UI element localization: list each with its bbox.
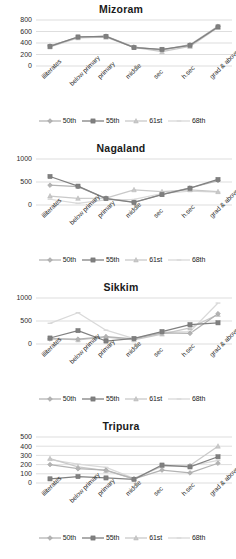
legend-item-55th[interactable]: 55th <box>82 111 119 129</box>
chart-panel-nagaland: Nagaland05001000illiteratesbelow primary… <box>0 139 236 278</box>
charts-page: Mizoram0200400600800illiteratesbelow pri… <box>0 0 236 559</box>
x-axis-labels-nagaland: illiteratesbelow primaryprimarymiddlesec… <box>0 213 236 251</box>
svg-text:400: 400 <box>20 39 32 46</box>
legend-marker-square-icon <box>82 111 104 129</box>
svg-text:300: 300 <box>20 452 32 459</box>
svg-text:0: 0 <box>28 340 32 347</box>
legend-marker-square-icon <box>82 389 104 407</box>
legend-item-68th[interactable]: 68th <box>168 528 205 546</box>
legend-marker-triangle-icon <box>125 250 147 268</box>
svg-text:600: 600 <box>20 28 32 35</box>
plot-area-nagaland: 05001000 <box>0 155 236 213</box>
legend-marker-dash-icon <box>168 250 190 268</box>
legend-item-61st[interactable]: 61st <box>125 111 162 129</box>
legend-label: 68th <box>192 395 205 402</box>
legend-marker-dash-icon <box>168 389 190 407</box>
x-axis-labels-sikkim: illiteratesbelow primaryprimarymiddlesec… <box>0 352 236 390</box>
chart-panel-tripura: Tripura0100200300400500illiteratesbelow … <box>0 417 236 556</box>
legend-label: 61st <box>149 117 162 124</box>
chart-title-mizoram: Mizoram <box>0 2 236 16</box>
legend-item-50th[interactable]: 50th <box>39 389 76 407</box>
legend-label: 55th <box>106 117 119 124</box>
legend-marker-diamond-icon <box>39 389 61 407</box>
svg-text:500: 500 <box>20 433 32 440</box>
x-axis-labels-tripura: illiteratesbelow primaryprimarymiddlesec… <box>0 491 236 529</box>
legend-item-68th[interactable]: 68th <box>168 250 205 268</box>
svg-text:200: 200 <box>20 461 32 468</box>
legend-marker-square-icon <box>82 528 104 546</box>
legend-marker-triangle-icon <box>125 111 147 129</box>
chart-title-sikkim: Sikkim <box>0 280 236 294</box>
legend-label: 55th <box>106 256 119 263</box>
legend-marker-dash-icon <box>168 528 190 546</box>
plot-area-sikkim: 05001000 <box>0 294 236 352</box>
svg-text:500: 500 <box>20 317 32 324</box>
legend-marker-diamond-icon <box>39 250 61 268</box>
legend-label: 61st <box>149 534 162 541</box>
legend-label: 55th <box>106 534 119 541</box>
legend-label: 55th <box>106 395 119 402</box>
chart-panel-sikkim: Sikkim05001000illiteratesbelow primarypr… <box>0 278 236 417</box>
legend-item-68th[interactable]: 68th <box>168 111 205 129</box>
legend-item-50th[interactable]: 50th <box>39 528 76 546</box>
legend-label: 61st <box>149 256 162 263</box>
legend-label: 61st <box>149 395 162 402</box>
chart-title-tripura: Tripura <box>0 419 236 433</box>
legend-mizoram: 50th55th61st68th <box>0 112 236 128</box>
plot-area-mizoram: 0200400600800 <box>0 16 236 74</box>
svg-text:100: 100 <box>20 470 32 477</box>
plot-area-tripura: 0100200300400500 <box>0 433 236 491</box>
legend-label: 68th <box>192 256 205 263</box>
legend-label: 68th <box>192 534 205 541</box>
legend-item-61st[interactable]: 61st <box>125 250 162 268</box>
svg-text:800: 800 <box>20 16 32 23</box>
legend-item-50th[interactable]: 50th <box>39 111 76 129</box>
legend-label: 50th <box>63 256 76 263</box>
svg-text:0: 0 <box>28 479 32 486</box>
svg-text:1000: 1000 <box>16 155 32 162</box>
legend-sikkim: 50th55th61st68th <box>0 390 236 406</box>
legend-marker-square-icon <box>82 250 104 268</box>
legend-item-55th[interactable]: 55th <box>82 389 119 407</box>
legend-label: 50th <box>63 395 76 402</box>
svg-text:500: 500 <box>20 178 32 185</box>
svg-text:0: 0 <box>28 201 32 208</box>
legend-item-55th[interactable]: 55th <box>82 250 119 268</box>
x-axis-labels-mizoram: illiteratesbelow primaryprimarymiddlesec… <box>0 74 236 112</box>
legend-marker-diamond-icon <box>39 528 61 546</box>
chart-panel-mizoram: Mizoram0200400600800illiteratesbelow pri… <box>0 0 236 139</box>
legend-item-61st[interactable]: 61st <box>125 389 162 407</box>
legend-label: 50th <box>63 117 76 124</box>
legend-marker-dash-icon <box>168 111 190 129</box>
legend-tripura: 50th55th61st68th <box>0 529 236 545</box>
chart-title-nagaland: Nagaland <box>0 141 236 155</box>
legend-item-61st[interactable]: 61st <box>125 528 162 546</box>
legend-item-55th[interactable]: 55th <box>82 528 119 546</box>
svg-text:1000: 1000 <box>16 294 32 301</box>
svg-text:400: 400 <box>20 443 32 450</box>
svg-text:200: 200 <box>20 51 32 58</box>
legend-item-68th[interactable]: 68th <box>168 389 205 407</box>
legend-marker-diamond-icon <box>39 111 61 129</box>
legend-label: 68th <box>192 117 205 124</box>
legend-marker-triangle-icon <box>125 528 147 546</box>
legend-marker-triangle-icon <box>125 389 147 407</box>
svg-text:0: 0 <box>28 62 32 69</box>
legend-label: 50th <box>63 534 76 541</box>
legend-item-50th[interactable]: 50th <box>39 250 76 268</box>
legend-nagaland: 50th55th61st68th <box>0 251 236 267</box>
